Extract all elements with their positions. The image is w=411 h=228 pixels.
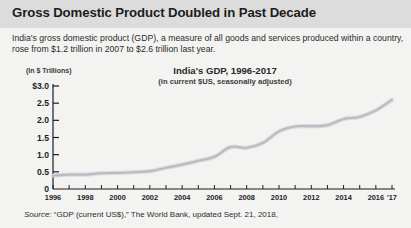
series-line-glow (53, 100, 392, 176)
page-title: Gross Domestic Product Doubled in Past D… (12, 5, 402, 20)
y-tick-label: 2.0 (37, 115, 49, 125)
source-label: Source: (24, 210, 52, 219)
source-text: “GDP (current US$),” The World Bank, upd… (52, 210, 278, 219)
x-tick-label: 2002 (142, 193, 158, 202)
chart-plot: 00.51.01.52.02.5$3.019961998200020022004… (0, 60, 411, 205)
y-tick-label: 1.5 (37, 133, 49, 143)
x-tick-label: 2004 (174, 193, 191, 202)
x-tick-label: 2008 (238, 193, 254, 202)
series-line (53, 100, 392, 176)
y-tick-label: 0.5 (37, 167, 49, 177)
x-tick-label: 2000 (109, 193, 125, 202)
x-tick-label: 1996 (45, 193, 61, 202)
x-tick-label: 1998 (77, 193, 93, 202)
x-tick-label: 2012 (303, 193, 319, 202)
source-note: Source: “GDP (current US$),” The World B… (24, 210, 404, 219)
x-tick-label: 2014 (335, 193, 352, 202)
x-tick-label: 2016 (368, 193, 384, 202)
infographic-page: Gross Domestic Product Doubled in Past D… (0, 0, 411, 228)
x-tick-label: 2006 (206, 193, 222, 202)
chart-container: (In $ Trillions) India's GDP, 1996-2017 … (0, 60, 411, 205)
y-tick-label: 2.5 (37, 98, 49, 108)
y-tick-label: $3.0 (32, 81, 49, 91)
x-tick-label: 2010 (271, 193, 287, 202)
y-tick-label: 1.0 (37, 150, 49, 160)
deck-text: India's gross domestic product (GDP), a … (12, 33, 404, 56)
x-tick-label: '17 (387, 193, 397, 202)
